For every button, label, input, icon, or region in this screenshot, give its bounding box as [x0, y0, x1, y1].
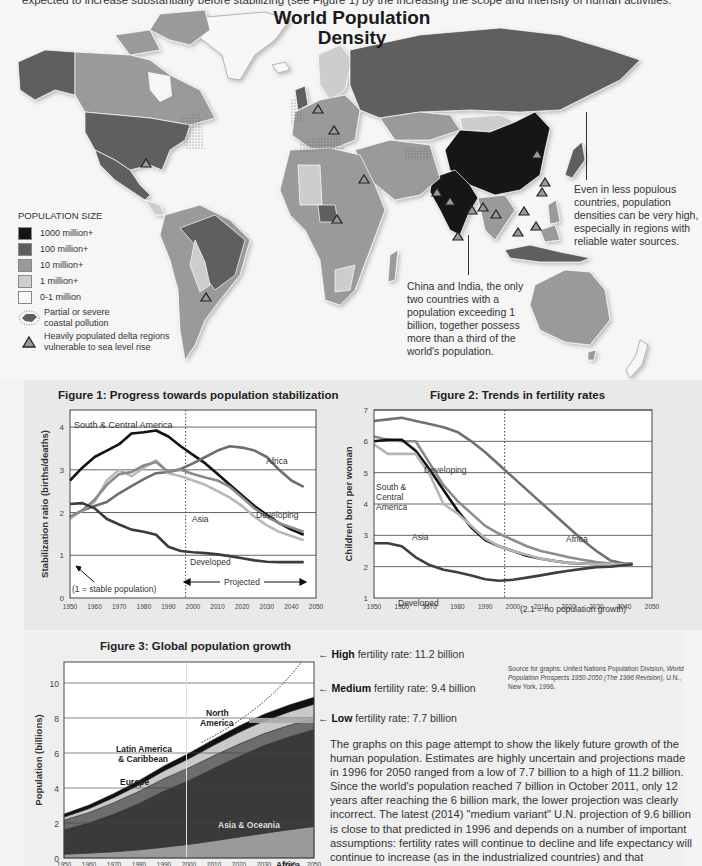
high-fertility-label: ← High fertility rate: 11.2 billion — [318, 648, 464, 660]
svg-text:2: 2 — [54, 819, 59, 829]
svg-text:2050: 2050 — [645, 603, 660, 610]
svg-text:1960: 1960 — [87, 603, 102, 610]
svg-text:4: 4 — [60, 423, 65, 432]
legend-item-pollution: Partial or severecoastal pollution — [18, 307, 170, 329]
svg-text:(2.1 = no population growth): (2.1 = no population growth) — [520, 604, 626, 614]
svg-text:2000: 2000 — [506, 603, 521, 610]
svg-text:2: 2 — [60, 509, 65, 518]
svg-text:& Caribbean: & Caribbean — [118, 754, 168, 764]
svg-text:8: 8 — [54, 714, 59, 724]
figure2-title: Figure 2: Trends in fertility rates — [430, 389, 605, 401]
figure3-title: Figure 3: Global population growth — [100, 640, 291, 652]
figure3-chart: 0246810195019601970198019902000201020202… — [24, 652, 324, 866]
svg-text:Developed: Developed — [190, 557, 231, 567]
svg-text:Children born per woman: Children born per woman — [343, 446, 354, 561]
callout-east-asia: Even in less populous countries, populat… — [574, 183, 702, 248]
svg-text:0: 0 — [60, 594, 65, 603]
svg-text:Europe: Europe — [120, 777, 150, 787]
population-legend: POPULATION SIZE 1000 million+ 100 millio… — [18, 210, 170, 353]
world-map-section: expected to increase substantially befor… — [0, 0, 702, 380]
svg-text:Asia: Asia — [192, 514, 209, 524]
legend-title: POPULATION SIZE — [18, 210, 170, 221]
explanatory-paragraph: The graphs on this page attempt to show … — [330, 737, 692, 866]
svg-text:1990: 1990 — [161, 603, 176, 610]
svg-text:Africa: Africa — [276, 860, 300, 866]
svg-text:6: 6 — [364, 437, 369, 446]
legend-item: 10 million+ — [18, 257, 170, 273]
svg-text:6: 6 — [54, 749, 59, 759]
legend-item: 1000 million+ — [18, 225, 170, 241]
svg-text:2030: 2030 — [257, 861, 272, 866]
svg-text:2000: 2000 — [186, 603, 201, 610]
svg-text:2050: 2050 — [309, 603, 324, 610]
svg-text:1990: 1990 — [478, 603, 493, 610]
svg-text:1990: 1990 — [157, 861, 172, 866]
figure1-chart: 0123419501960197019801990200020102020203… — [24, 402, 324, 617]
svg-text:2000: 2000 — [182, 861, 197, 866]
swatch-icon — [18, 275, 32, 288]
svg-text:1980: 1980 — [450, 603, 465, 610]
svg-text:2010: 2010 — [210, 603, 225, 610]
legend-item: 0-1 million — [18, 289, 170, 305]
arrow-left-icon: ← — [318, 648, 331, 660]
swatch-icon — [18, 227, 32, 240]
arrow-left-icon: ← — [318, 682, 331, 694]
svg-text:1: 1 — [364, 594, 369, 603]
svg-text:1980: 1980 — [137, 603, 152, 610]
svg-text:7: 7 — [364, 406, 369, 415]
swatch-icon — [18, 291, 32, 304]
svg-text:Africa: Africa — [266, 456, 288, 466]
svg-text:South &: South & — [376, 482, 407, 492]
svg-text:Developing: Developing — [424, 465, 467, 475]
svg-text:1980: 1980 — [132, 861, 147, 866]
svg-text:Stabilization ratio (births/de: Stabilization ratio (births/deaths) — [39, 430, 50, 578]
svg-text:Asia: Asia — [412, 532, 429, 542]
svg-text:1950: 1950 — [367, 603, 382, 610]
svg-text:2010: 2010 — [207, 861, 222, 866]
svg-text:1950: 1950 — [57, 861, 72, 866]
svg-text:1970: 1970 — [112, 603, 127, 610]
callout-pointer — [586, 112, 587, 180]
svg-text:1950: 1950 — [63, 603, 78, 610]
delta-triangle-icon — [18, 336, 40, 348]
svg-text:2030: 2030 — [260, 603, 275, 610]
svg-text:3: 3 — [60, 466, 65, 475]
svg-text:2020: 2020 — [232, 861, 247, 866]
svg-text:2020: 2020 — [235, 603, 250, 610]
callout-china-india: China and India, the only two countries … — [407, 280, 533, 358]
arrow-left-icon: ← — [318, 712, 331, 724]
figure2-chart: 1234567195019601970198019902000201020202… — [340, 402, 660, 617]
svg-text:South & Central America: South & Central America — [74, 420, 173, 430]
legend-item: 100 million+ — [18, 241, 170, 257]
svg-text:5: 5 — [364, 469, 369, 478]
svg-text:Projected: Projected — [224, 577, 260, 587]
svg-text:1: 1 — [60, 551, 65, 560]
svg-text:America: America — [376, 502, 407, 512]
svg-text:2050: 2050 — [307, 861, 322, 866]
svg-text:4: 4 — [54, 784, 59, 794]
callout-pointer — [468, 235, 469, 275]
map-title: World Population Density — [262, 8, 442, 48]
coastal-pollution-icon — [18, 310, 40, 326]
svg-text:4: 4 — [364, 500, 369, 509]
svg-text:Developed: Developed — [398, 598, 439, 608]
svg-text:Developing: Developing — [256, 510, 299, 520]
svg-text:Population (billions): Population (billions) — [33, 714, 44, 805]
svg-text:Asia & Oceania: Asia & Oceania — [218, 820, 280, 830]
svg-text:2040: 2040 — [284, 603, 299, 610]
svg-text:Africa: Africa — [566, 534, 588, 544]
legend-item: 1 million+ — [18, 273, 170, 289]
svg-text:3: 3 — [364, 531, 369, 540]
svg-text:(1 = stable population): (1 = stable population) — [72, 584, 157, 594]
swatch-icon — [18, 259, 32, 272]
medium-fertility-label: ← Medium fertility rate: 9.4 billion — [318, 682, 476, 694]
source-note: Source for graphs: United Nations Popula… — [508, 664, 688, 691]
figure1-title: Figure 1: Progress towards population st… — [58, 389, 339, 401]
svg-text:1960: 1960 — [82, 861, 97, 866]
svg-text:Central: Central — [376, 492, 404, 502]
svg-text:America: America — [200, 718, 234, 728]
svg-text:2: 2 — [364, 563, 369, 572]
swatch-icon — [18, 243, 32, 256]
svg-text:North: North — [206, 708, 229, 718]
svg-text:1970: 1970 — [107, 861, 122, 866]
